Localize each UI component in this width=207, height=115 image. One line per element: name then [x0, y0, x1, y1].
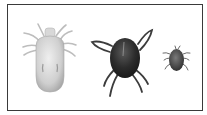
dark-mite — [92, 30, 152, 96]
small-mite — [163, 46, 190, 71]
mites-illustration — [0, 0, 207, 115]
pale-mite — [23, 24, 76, 92]
